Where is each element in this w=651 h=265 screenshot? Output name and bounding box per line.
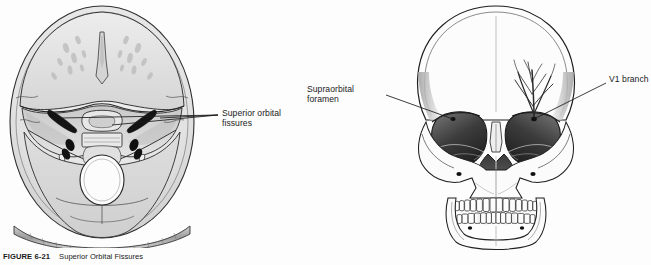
- figure-caption-text: Superior Orbital Fissures: [59, 252, 143, 261]
- supraorbital-foramen: [450, 117, 455, 121]
- figure-page: Superior orbital fissures Supraorbital f…: [0, 0, 651, 265]
- upper-teeth: [455, 198, 537, 212]
- label-supraorbital-foramen: Supraorbital foramen: [307, 84, 385, 105]
- illustration-skull-anterior: [396, 2, 596, 252]
- infraorbital-foramen-right: [530, 172, 535, 176]
- label-superior-orbital-fissures: Superior orbital fissures: [222, 108, 296, 129]
- figure-caption-number: FIGURE 6-21: [3, 252, 50, 261]
- figure-caption: FIGURE 6-21 Superior Orbital Fissures: [3, 252, 423, 265]
- mental-foramen-right: [520, 226, 524, 230]
- infraorbital-foramen-left: [456, 172, 461, 176]
- label-v1-branch: V1 branch: [609, 74, 651, 84]
- lower-teeth: [457, 212, 535, 223]
- illustration-cranial-base-axial: [4, 2, 200, 248]
- mental-foramen-left: [468, 226, 472, 230]
- anterior-cranial-fossa: [20, 12, 184, 112]
